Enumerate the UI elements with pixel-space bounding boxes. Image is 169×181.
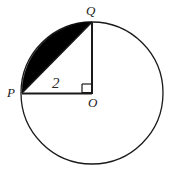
geometry-figure: P Q O 2 [0,0,169,181]
point-label-q: Q [86,4,95,17]
geometry-canvas [0,0,169,181]
point-label-p: P [7,86,15,99]
point-label-o: O [88,96,97,109]
segment-length-label-po: 2 [52,76,60,91]
right-angle-marker [82,84,91,93]
